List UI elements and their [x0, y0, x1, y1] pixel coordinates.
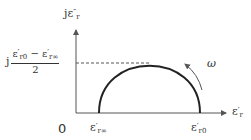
semicircle-curve: [99, 66, 200, 113]
omega-direction-arrow: [185, 64, 202, 90]
x-tick-eps-inf: ε′r∞: [90, 122, 107, 135]
x-tick-eps-0: ε′r0: [191, 122, 206, 135]
x-axis-label: ε′r: [232, 106, 243, 119]
y-axis-label: jε″r: [64, 8, 79, 21]
peak-value-label: j ε′r0 − ε′r∞ 2: [6, 48, 59, 76]
origin-label: 0: [58, 122, 66, 135]
omega-label: ω: [207, 58, 216, 69]
